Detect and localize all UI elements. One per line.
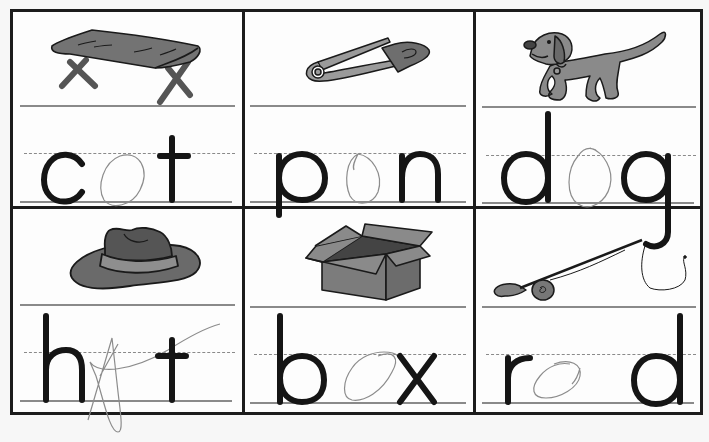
- midline-dashed: [486, 354, 696, 355]
- midline-dashed: [254, 354, 466, 355]
- top-rule: [482, 106, 696, 108]
- top-rule: [250, 306, 466, 308]
- top-rule: [482, 306, 696, 308]
- midline-dashed: [254, 153, 466, 154]
- midline-dashed: [24, 153, 235, 154]
- midline-dashed: [24, 352, 235, 353]
- baseline-rule: [20, 400, 232, 402]
- baseline-rule: [250, 402, 466, 404]
- baseline-rule: [482, 202, 694, 204]
- midline-dashed: [486, 155, 696, 156]
- baseline-rule: [482, 402, 694, 404]
- top-rule: [20, 304, 235, 306]
- top-rule: [20, 105, 235, 107]
- column-divider: [473, 9, 476, 415]
- column-divider: [242, 9, 245, 415]
- top-rule: [250, 105, 466, 107]
- row-divider: [10, 206, 703, 209]
- baseline-rule: [250, 201, 466, 203]
- baseline-rule: [20, 201, 232, 203]
